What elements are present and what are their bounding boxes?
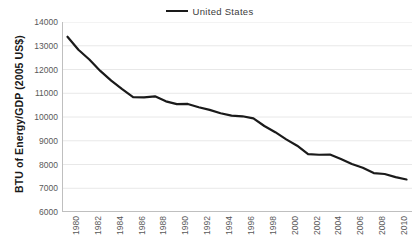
x-tick-label: 1986 (137, 216, 147, 235)
x-axis-tick-labels: 1980198219841986198819901992199419961998… (62, 212, 412, 250)
y-tick-label: 10000 (18, 112, 58, 122)
y-axis-tick-labels: 6000700080009000100001100012000130001400… (18, 22, 58, 212)
x-tick-label: 1992 (202, 216, 212, 235)
plot-svg (62, 22, 412, 212)
legend-label: United States (193, 6, 254, 17)
x-tick-label: 1996 (246, 216, 256, 235)
y-tick-label: 11000 (18, 88, 58, 98)
y-tick-label: 9000 (18, 136, 58, 146)
x-tick-label: 1990 (180, 216, 190, 235)
energy-intensity-line-chart: United States BTU of Energy/GDP (2005 US… (0, 0, 419, 250)
chart-legend: United States (0, 2, 419, 20)
series-line-united-states (67, 37, 406, 180)
x-tick-label: 2002 (312, 216, 322, 235)
x-tick-label: 1980 (71, 216, 81, 235)
x-tick-label: 2004 (333, 216, 343, 235)
legend-entry-united-states: United States (166, 6, 254, 17)
gridlines (62, 22, 412, 188)
x-tick-label: 1984 (115, 216, 125, 235)
y-tick-label: 13000 (18, 41, 58, 51)
x-tick-label: 2010 (399, 216, 409, 235)
y-tick-label: 14000 (18, 17, 58, 27)
x-tick-label: 1988 (158, 216, 168, 235)
plot-area (62, 22, 412, 212)
x-tick-label: 1982 (93, 216, 103, 235)
y-tick-label: 6000 (18, 207, 58, 217)
y-tick-label: 8000 (18, 160, 58, 170)
y-tick-label: 12000 (18, 65, 58, 75)
y-tick-label: 7000 (18, 183, 58, 193)
x-tick-label: 2006 (355, 216, 365, 235)
x-tick-label: 2000 (290, 216, 300, 235)
data-series-group (67, 37, 406, 180)
x-tick-label: 2008 (377, 216, 387, 235)
x-tick-label: 1994 (224, 216, 234, 235)
legend-line-swatch-icon (166, 10, 188, 12)
x-tick-label: 1998 (268, 216, 278, 235)
